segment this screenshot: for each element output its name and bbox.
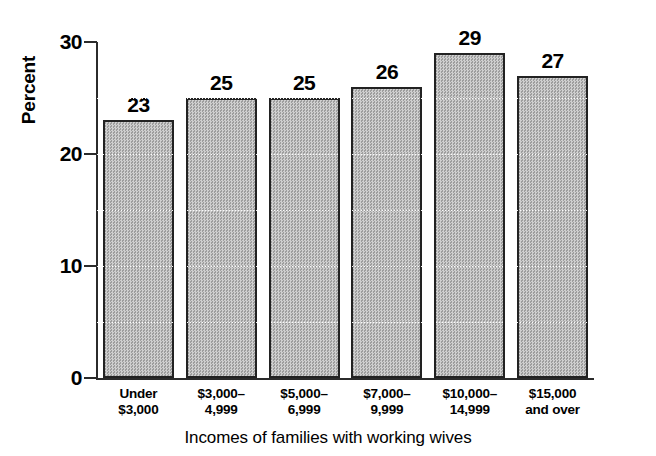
x-category-label: $5,000–6,999 [257, 386, 352, 417]
plot-area: 232525262927 [97, 42, 594, 378]
x-axis-line [96, 378, 594, 380]
chart-caption: Incomes of families with working wives [0, 428, 656, 448]
x-category-label-line: $3,000 [91, 402, 186, 418]
y-tick-mark [84, 265, 97, 267]
x-category-label: $7,000–9,999 [340, 386, 435, 417]
x-category-label-line: $7,000– [340, 386, 435, 402]
x-category-label: $10,000–14,999 [422, 386, 517, 417]
x-category-label-line: Under [91, 386, 186, 402]
bar-value-label: 25 [186, 72, 257, 93]
y-tick-label: 20 [26, 143, 82, 164]
x-category-label: Under$3,000 [91, 386, 186, 417]
y-tick-mark [84, 41, 97, 43]
bar [269, 98, 340, 378]
bar-value-label: 26 [351, 61, 422, 82]
bar [103, 120, 174, 378]
bar [434, 53, 505, 378]
y-tick-mark [84, 153, 97, 155]
y-tick-label: 10 [26, 255, 82, 276]
x-category-label-line: $5,000– [257, 386, 352, 402]
x-category-label: $3,000–4,999 [174, 386, 269, 417]
y-tick-label-text: 10 [42, 255, 82, 276]
x-category-label-line: 9,999 [340, 402, 435, 418]
y-tick-label-text: 0 [42, 367, 82, 388]
bar [517, 76, 588, 378]
x-category-label-line: 4,999 [174, 402, 269, 418]
x-category-label-line: $10,000– [422, 386, 517, 402]
bar-value-label: 25 [269, 72, 340, 93]
x-category-label-line: $3,000– [174, 386, 269, 402]
y-tick-label: 30 [26, 31, 82, 52]
y-tick-label: 0 [26, 367, 82, 388]
y-tick-label-text: 30 [42, 31, 82, 52]
x-category-label-line: 6,999 [257, 402, 352, 418]
x-category-label-line: 14,999 [422, 402, 517, 418]
x-category-label-line: and over [505, 402, 600, 418]
y-tick-label-text: 20 [42, 143, 82, 164]
bar [351, 87, 422, 378]
bar [186, 98, 257, 378]
bar-value-label: 27 [517, 50, 588, 71]
bar-value-label: 23 [103, 94, 174, 115]
bar-chart: Percent 0102030 232525262927 Under$3,000… [0, 0, 656, 456]
x-category-label-line: $15,000 [505, 386, 600, 402]
y-tick-mark [84, 377, 97, 379]
x-category-label: $15,000and over [505, 386, 600, 417]
bar-value-label: 29 [434, 27, 505, 48]
